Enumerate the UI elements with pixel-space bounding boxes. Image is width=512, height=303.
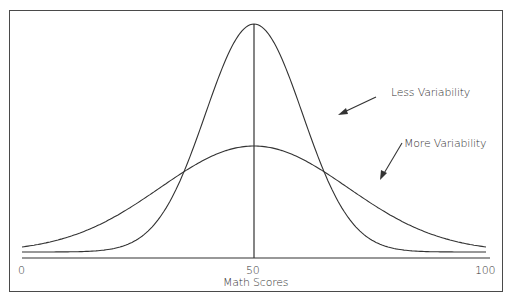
more-variability-arrow: [380, 143, 402, 180]
chart-plot: [0, 0, 512, 303]
x-tick-0: 0: [18, 264, 25, 277]
more-variability-label: More Variability: [404, 137, 486, 150]
x-axis-label: Math Scores: [223, 276, 288, 289]
less-variability-arrow: [338, 97, 376, 115]
less-variability-label: Less Variability: [391, 86, 470, 99]
x-tick-100: 100: [475, 264, 495, 277]
